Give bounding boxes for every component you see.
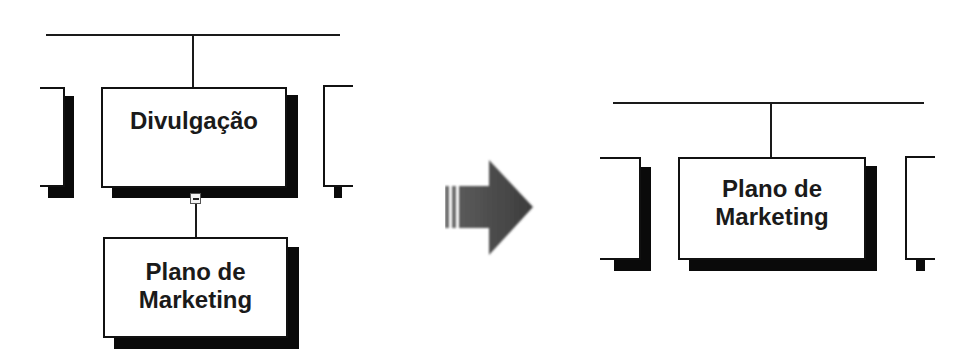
child-connector [195,204,197,238]
org-connector-vertical [192,34,194,88]
divulgacao-label: Divulgação [130,107,258,134]
sibling-node-left[interactable] [40,87,65,187]
sibling-right-shadow [334,186,342,198]
right-arrow-icon [445,155,545,265]
org-connector-vertical [770,102,772,158]
child-label-line1: Plano de [105,258,286,286]
plano-marketing-node[interactable]: Plano de Marketing [103,237,288,338]
sibling-right-shadow [916,259,925,271]
sibling-node-right[interactable] [905,156,935,260]
org-connector-horizontal [613,102,924,104]
sibling-node-left[interactable] [600,157,641,260]
divulgacao-node[interactable]: Divulgação [101,87,287,188]
plano-marketing-node[interactable]: Plano de Marketing [678,157,866,260]
minus-icon [193,198,199,200]
node-label-line2: Marketing [680,203,864,231]
node-label-line1: Plano de [680,175,864,203]
child-label-line2: Marketing [105,286,286,314]
sibling-node-right[interactable] [323,85,353,187]
collapse-button[interactable] [190,193,201,204]
